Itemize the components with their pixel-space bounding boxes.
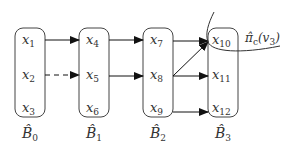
node-x12: x12 — [212, 100, 231, 117]
block-label-b1: B̂1 — [85, 124, 102, 143]
node-x8: x8 — [150, 67, 163, 84]
node-x2: x2 — [22, 67, 35, 84]
node-x11: x11 — [212, 67, 231, 84]
node-x7: x7 — [150, 32, 163, 49]
block-label-b2: B̂2 — [149, 124, 166, 143]
node-x4: x4 — [86, 32, 99, 49]
block-label-b3: B̂3 — [214, 124, 231, 143]
node-x9: x9 — [150, 100, 163, 117]
node-x5: x5 — [86, 67, 99, 84]
diagram-canvas: x1 x2 x3 x4 x5 x6 x7 x8 x9 x10 x11 x12 B… — [0, 0, 291, 147]
node-x6: x6 — [86, 100, 99, 117]
block-label-b0: B̂0 — [21, 124, 38, 143]
node-x10: x10 — [212, 32, 231, 49]
annotation-label: π̂c(v3) — [244, 31, 280, 47]
node-x1: x1 — [22, 32, 35, 49]
node-x3: x3 — [22, 100, 35, 117]
edge-x8-x10 — [173, 42, 208, 76]
